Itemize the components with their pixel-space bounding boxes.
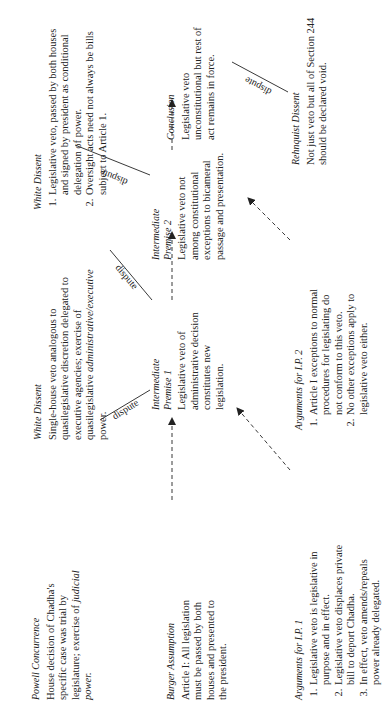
node-title: Conclusion — [165, 15, 177, 140]
node-body: Not just veto but all of Section 244 sho… — [305, 15, 330, 165]
node-arguments-ip1: Arguments for I.P. 1 Legislative veto is… — [293, 542, 383, 700]
list-item: No other exceptions apply to legislative… — [345, 280, 370, 416]
node-burger-assumption: Burger Assumption Article I: All legisla… — [165, 588, 230, 700]
list-item: Article I exceptions to normal procedure… — [308, 280, 346, 416]
node-title: Rehnquist Dissent — [290, 15, 302, 165]
node-title: Arguments for I.P. 2 — [293, 280, 305, 430]
argument-list: Legislative veto is legislative in purpo… — [308, 542, 383, 700]
list-item: Oversight acts need not always be bills … — [84, 20, 109, 196]
dissent-list: Legislative veto, passed by both houses … — [47, 20, 110, 210]
node-title: IntermediatePremise 2 — [150, 148, 173, 260]
node-intermediate-premise-1: IntermediatePremise 1 Legislative veto o… — [150, 298, 226, 410]
node-body: Legislative veto not among constitutiona… — [176, 148, 226, 260]
node-conclusion: Conclusion Legislative veto unconstituti… — [165, 15, 217, 140]
arrow-args2-to-ip2 — [248, 198, 290, 240]
node-powell-concurrence: Powell Concurrence House decision of Cha… — [30, 570, 95, 700]
node-body: Legislative veto unconstitutional but re… — [180, 15, 218, 140]
node-arguments-ip2: Arguments for I.P. 2 Article I exception… — [293, 280, 370, 430]
node-title: White Dissent — [32, 20, 44, 210]
argument-list: Article I exceptions to normal procedure… — [308, 280, 371, 430]
node-body: Article I: All legislation must be passe… — [180, 588, 230, 700]
node-rehnquist-dissent: Rehnquist Dissent Not just veto but all … — [290, 15, 330, 165]
list-item: In effect, veto amends/repeals power alr… — [358, 542, 383, 686]
node-white-dissent-1: White Dissent Single-house veto analogou… — [32, 260, 109, 440]
list-item: Legislative veto is legislative in purpo… — [308, 542, 333, 686]
node-title: White Dissent — [32, 260, 44, 440]
node-intermediate-premise-2: IntermediatePremise 2 Legislative veto n… — [150, 148, 226, 260]
arrow-args1-to-ip1 — [237, 408, 290, 470]
list-item: Legislative veto displaces private bill … — [333, 542, 358, 686]
node-body: House decision of Chadha's specific case… — [45, 570, 95, 700]
node-white-dissent-2: White Dissent Legislative veto, passed b… — [32, 20, 109, 210]
list-item: Legislative veto, passed by both houses … — [47, 20, 85, 196]
node-title: Arguments for I.P. 1 — [293, 542, 305, 700]
node-title: IntermediatePremise 1 — [150, 298, 173, 410]
node-body: Single-house veto analogous to quasilegi… — [47, 260, 110, 440]
node-title: Powell Concurrence — [30, 570, 42, 700]
node-title: Burger Assumption — [165, 588, 177, 700]
node-body: Legislative veto of administrative decis… — [176, 298, 226, 410]
